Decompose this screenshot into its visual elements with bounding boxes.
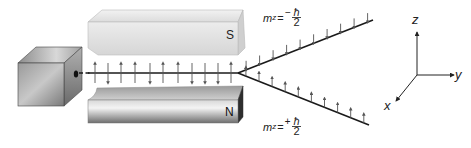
y-axis-label: y — [455, 67, 462, 82]
south-pole-label: S — [226, 28, 234, 42]
north-pole-label: N — [225, 105, 234, 119]
lower-beam-label: mz=+ħ2 — [263, 117, 301, 136]
magnet-south — [88, 10, 245, 55]
upper-beam-label: mz=−ħ2 — [263, 8, 301, 27]
coordinate-axes — [396, 32, 454, 101]
x-axis-label: x — [384, 98, 391, 113]
beam-upper-branch — [238, 20, 373, 73]
oven-cube — [18, 47, 82, 106]
aperture-icon — [74, 70, 78, 77]
beam-lower-branch — [238, 73, 369, 125]
stern-gerlach-diagram: S N mz=−ħ2 mz=+ħ2 z y x — [0, 0, 471, 148]
z-axis-label: z — [412, 12, 419, 27]
lower-spin-arrows — [246, 67, 364, 123]
magnet-north — [88, 86, 243, 123]
